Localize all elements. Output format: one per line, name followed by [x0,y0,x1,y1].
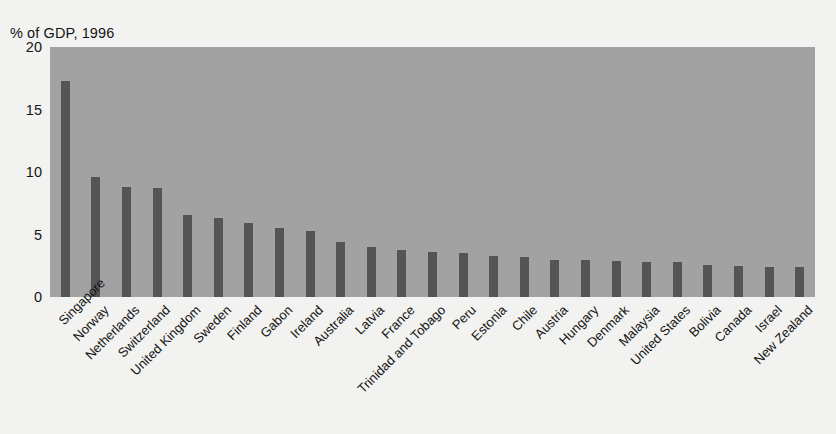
bar [489,256,498,297]
bar [397,250,406,298]
bar [244,223,253,297]
bar [428,252,437,297]
bar [183,215,192,298]
bar [275,228,284,297]
bar [673,262,682,297]
y-axis-tick-label: 5 [34,227,42,242]
bar [459,253,468,297]
plot-area [50,47,815,297]
bar [367,247,376,297]
bar [703,265,712,298]
bar [306,231,315,297]
y-axis-tick-label: 10 [26,165,42,180]
bar [795,267,804,297]
x-axis-tick-label: Singapore [56,303,80,327]
bar [61,81,70,297]
bar [520,257,529,297]
bar [765,267,774,297]
bar [581,260,590,298]
y-axis-tick-label: 0 [34,290,42,305]
bar [153,188,162,297]
x-axis: SingaporeNorwayNetherlandsSwitzerlandUni… [50,297,815,427]
y-axis: 05101520 [0,47,46,297]
y-axis-tick-label: 20 [26,40,42,55]
y-axis-tick-label: 15 [26,102,42,117]
bars-layer [50,47,815,297]
bar [214,218,223,297]
bar [612,261,621,297]
bar [336,242,345,297]
bar-chart: % of GDP, 1996 05101520 SingaporeNorwayN… [0,0,836,434]
bar [734,266,743,297]
bar [642,262,651,297]
bar [122,187,131,297]
bar [550,260,559,298]
